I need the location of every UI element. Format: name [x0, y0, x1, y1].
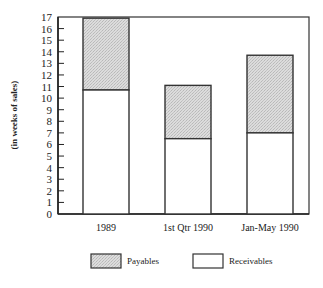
y-tick-label: 14 — [41, 46, 53, 58]
legend-label: Payables — [127, 256, 159, 266]
legend-item-receivables: Receivables — [193, 254, 273, 268]
y-axis-ticks: 01234567891011121314151617 — [41, 11, 64, 220]
y-tick-label: 1 — [47, 196, 53, 208]
receivables-segment — [83, 90, 129, 214]
y-tick-label: 3 — [47, 173, 53, 185]
x-category-label: 1st Qtr 1990 — [163, 222, 213, 233]
legend-item-payables: Payables — [91, 254, 159, 268]
y-tick-label: 0 — [47, 208, 53, 220]
y-tick-label: 9 — [47, 104, 53, 116]
y-tick-label: 15 — [41, 34, 53, 46]
y-tick-label: 16 — [41, 23, 53, 35]
bar-stack-1 — [165, 85, 211, 214]
y-axis-label-group: (in weeks of sales) — [9, 81, 19, 150]
y-axis-label: (in weeks of sales) — [9, 81, 19, 150]
stacked-bar-chart: (in weeks of sales) 01234567891011121314… — [0, 0, 323, 288]
x-axis-labels: 19891st Qtr 1990Jan-May 1990 — [96, 222, 299, 233]
y-tick-label: 17 — [41, 11, 53, 23]
y-tick-label: 7 — [47, 127, 53, 139]
bars — [83, 18, 293, 214]
legend-label: Receivables — [229, 256, 273, 266]
bar-stack-0 — [83, 18, 129, 214]
y-tick-label: 8 — [47, 115, 53, 127]
receivables-segment — [165, 139, 211, 214]
payables-segment — [247, 55, 293, 133]
payables-segment — [83, 18, 129, 90]
y-tick-label: 11 — [41, 81, 52, 93]
receivables-segment — [247, 133, 293, 214]
y-tick-label: 2 — [47, 185, 53, 197]
y-tick-label: 4 — [47, 162, 53, 174]
x-category-label: Jan-May 1990 — [241, 222, 299, 233]
y-tick-label: 13 — [41, 57, 53, 69]
y-tick-label: 5 — [47, 150, 53, 162]
y-tick-label: 10 — [41, 92, 53, 104]
x-category-label: 1989 — [96, 222, 116, 233]
y-tick-label: 6 — [47, 138, 53, 150]
bar-stack-2 — [247, 55, 293, 214]
payables-segment — [165, 85, 211, 138]
legend-swatch — [91, 254, 121, 268]
legend-swatch — [193, 254, 223, 268]
y-tick-label: 12 — [41, 69, 52, 81]
legend: PayablesReceivables — [91, 254, 273, 268]
